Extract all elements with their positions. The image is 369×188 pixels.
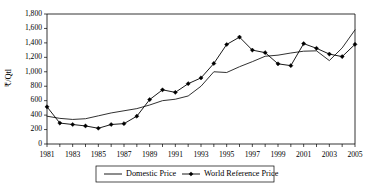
data-point-marker — [83, 124, 87, 128]
y-tick-label: 200 — [31, 124, 43, 133]
x-tick-label: 1983 — [65, 150, 80, 159]
data-point-marker — [122, 122, 126, 126]
data-point-marker — [289, 64, 293, 68]
series-line-domestic-price — [47, 30, 355, 120]
x-tick-label: 1997 — [245, 150, 260, 159]
y-axis-title: ₹/Qtl — [4, 68, 13, 87]
x-tick-label: 1985 — [91, 150, 106, 159]
chart-container: ₹/Qtl 02004006008001,0001,2001,4001,6001… — [0, 0, 369, 188]
y-tick-label: 1,400 — [25, 38, 42, 47]
y-tick-label: 1,200 — [25, 52, 42, 61]
y-tick-label: 800 — [31, 81, 43, 90]
chart-legend: Domestic PriceWorld Reference Price — [96, 166, 279, 182]
x-tick-label: 1987 — [116, 150, 131, 159]
y-tick-label: 1,000 — [25, 67, 42, 76]
y-tick-label: 1,600 — [25, 23, 42, 32]
data-point-marker — [302, 42, 306, 46]
y-axis-ticks: 02004006008001,0001,2001,4001,6001,800 — [25, 9, 47, 148]
data-point-marker — [96, 126, 100, 130]
x-tick-label: 1989 — [142, 150, 157, 159]
x-tick-label: 1993 — [193, 150, 208, 159]
y-tick-label: 1,800 — [25, 9, 42, 18]
legend-label-world: World Reference Price — [204, 169, 279, 178]
x-tick-label: 2001 — [296, 150, 311, 159]
x-tick-label: 1981 — [39, 150, 54, 159]
x-tick-label: 1999 — [270, 150, 285, 159]
x-tick-label: 2003 — [322, 150, 337, 159]
y-tick-label: 0 — [38, 139, 42, 148]
data-point-marker — [314, 46, 318, 50]
line-chart: ₹/Qtl 02004006008001,0001,2001,4001,6001… — [0, 0, 369, 188]
data-series-group — [45, 30, 357, 130]
y-axis-title-group: ₹/Qtl — [4, 68, 13, 87]
data-point-marker — [71, 122, 75, 126]
y-tick-label: 400 — [31, 110, 43, 119]
x-axis-ticks: 1981198319851987198919911993199519971999… — [39, 144, 362, 159]
x-tick-label: 1991 — [168, 150, 183, 159]
x-tick-label: 2005 — [347, 150, 362, 159]
legend-label-domestic: Domestic Price — [126, 169, 177, 178]
data-point-marker — [109, 122, 113, 126]
x-tick-label: 1995 — [219, 150, 234, 159]
data-point-marker — [327, 52, 331, 56]
y-tick-label: 600 — [31, 95, 43, 104]
